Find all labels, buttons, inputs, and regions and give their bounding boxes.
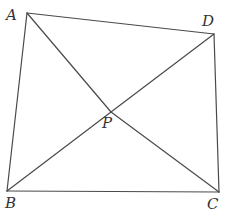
segment-ad	[27, 13, 214, 34]
geometry-diagram: A B C D P	[0, 0, 226, 212]
label-b: B	[4, 194, 16, 212]
segment-cb	[7, 191, 219, 192]
segment-pd	[111, 34, 214, 112]
segment-ap	[27, 13, 111, 112]
label-d: D	[201, 12, 214, 30]
segment-bp	[7, 112, 111, 191]
vertex-labels: A B C D P	[4, 6, 219, 212]
label-p: P	[101, 114, 113, 132]
segment-ba	[7, 13, 27, 191]
segment-dc	[214, 34, 219, 192]
label-c: C	[207, 195, 219, 212]
segment-pc	[111, 112, 219, 192]
interior-segments	[7, 13, 219, 192]
label-a: A	[4, 6, 17, 24]
quadrilateral-abcd	[7, 13, 219, 192]
